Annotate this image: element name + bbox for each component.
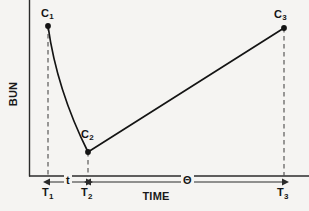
data-point-c3 [281,25,287,31]
chart-plot-area [0,0,309,211]
point-label-c3-text: C [274,8,282,20]
annotation-label-t: t [64,175,72,186]
curve-segment-rise [88,28,284,152]
x-tick-label-t3: T3 [277,186,288,198]
point-label-c3: C3 [274,8,286,20]
data-point-c1 [45,23,51,29]
x-tick-label-t3-subscript: 3 [284,192,288,201]
point-label-c2-subscript: 2 [89,133,93,142]
x-tick-label-t1-subscript: 1 [49,192,53,201]
x-axis-label: TIME [133,190,179,202]
y-axis-label: BUN [7,74,19,114]
x-tick-label-t2-subscript: 2 [88,192,92,201]
point-label-c2: C2 [81,128,93,140]
x-tick-label-t1-text: T [42,186,49,198]
chart-figure: BUN TIME C1 C2 C3 T1 T2 T3 t Θ [0,0,309,211]
point-label-c1: C1 [41,7,53,19]
point-label-c1-text: C [41,7,49,19]
x-tick-label-t2-text: T [81,186,88,198]
point-label-c3-subscript: 3 [282,13,286,22]
point-label-c2-text: C [81,128,89,140]
x-tick-label-t3-text: T [277,186,284,198]
x-tick-label-t1: T1 [42,186,53,198]
annotation-label-theta: Θ [181,175,194,186]
point-label-c1-subscript: 1 [49,12,53,21]
data-point-c2 [85,149,91,155]
x-tick-label-t2: T2 [81,186,92,198]
